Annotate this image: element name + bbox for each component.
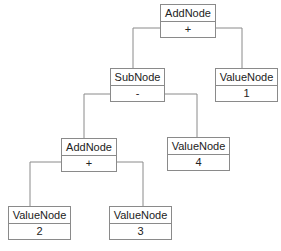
tree-node-valuenode: ValueNode3 bbox=[109, 206, 172, 240]
tree-node-subnode: SubNode- bbox=[110, 68, 165, 102]
tree-node-addnode: AddNode+ bbox=[160, 4, 216, 38]
node-value-label: 4 bbox=[168, 155, 229, 171]
edge-n4-n6 bbox=[30, 162, 61, 206]
node-type-label: AddNode bbox=[62, 139, 116, 156]
edge-n1-n2 bbox=[133, 28, 160, 68]
node-type-label: ValueNode bbox=[9, 207, 70, 224]
edge-n1-n3 bbox=[216, 28, 242, 68]
node-type-label: ValueNode bbox=[216, 69, 277, 86]
edge-n2-n5 bbox=[165, 94, 197, 137]
tree-node-addnode: AddNode+ bbox=[61, 138, 117, 172]
node-type-label: ValueNode bbox=[110, 207, 171, 224]
node-value-label: 1 bbox=[216, 86, 277, 102]
node-value-label: 3 bbox=[110, 224, 171, 240]
node-value-label: - bbox=[111, 86, 164, 102]
node-value-label: + bbox=[161, 22, 215, 38]
node-type-label: SubNode bbox=[111, 69, 164, 86]
node-type-label: ValueNode bbox=[168, 138, 229, 155]
tree-node-valuenode: ValueNode1 bbox=[215, 68, 278, 102]
node-type-label: AddNode bbox=[161, 5, 215, 22]
node-value-label: 2 bbox=[9, 224, 70, 240]
tree-node-valuenode: ValueNode4 bbox=[167, 137, 230, 171]
edge-n4-n7 bbox=[117, 162, 143, 206]
node-value-label: + bbox=[62, 156, 116, 172]
tree-node-valuenode: ValueNode2 bbox=[8, 206, 71, 240]
edge-n2-n4 bbox=[84, 94, 110, 138]
